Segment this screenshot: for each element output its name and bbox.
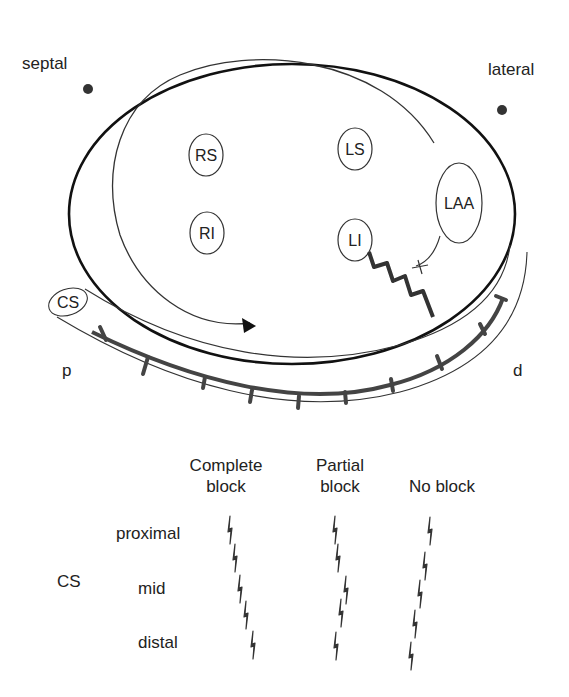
cs-proximal-end-label: p [62, 362, 71, 379]
column-header-line1: Complete [176, 455, 276, 476]
legend-column-no-block: No block [392, 476, 492, 497]
vein-LI: LI [338, 219, 372, 261]
bolt-icon [409, 642, 413, 670]
bolt-icon [251, 631, 255, 659]
left-atrial-appendage: LAA [436, 163, 482, 243]
vein-LS: LS [338, 128, 372, 170]
complete-block-activation-column [228, 516, 255, 659]
bolt-icon [339, 599, 343, 627]
legend-column-partial-block: Partial block [300, 455, 380, 497]
bolt-icon [333, 516, 337, 544]
column-header-line1: No block [392, 476, 492, 497]
bolt-icon [228, 516, 232, 544]
bolt-icon [334, 632, 338, 660]
svg-text:RI: RI [199, 225, 215, 242]
legend-row-distal: distal [138, 634, 178, 651]
bolt-icon [428, 517, 432, 545]
bolt-icon [336, 544, 340, 572]
bolt-icon [413, 610, 417, 638]
column-header-line1: Partial [300, 455, 380, 476]
legend-group-label-cs: CS [57, 573, 81, 590]
coronary-sinus-lower-wall [57, 252, 527, 402]
catheter-electrodes [100, 296, 506, 408]
bolt-icon [233, 544, 237, 572]
column-header-line2: block [176, 476, 276, 497]
vein-RI: RI [190, 212, 224, 254]
partial-block-activation-column [333, 516, 348, 660]
cs-catheter [92, 298, 503, 394]
legend-row-mid: mid [138, 580, 165, 597]
legend-row-proximal: proximal [116, 525, 180, 542]
svg-text:RS: RS [195, 147, 217, 164]
septal-label: septal [22, 55, 67, 72]
septal-dot-icon [83, 84, 93, 94]
block-cross-icon [412, 260, 428, 274]
bolt-icon [423, 552, 427, 580]
cs-activation-diagram: RS LS RI LI LAA CS [0, 0, 569, 697]
blocked-conduction-line [416, 236, 440, 266]
wavefront-arrowhead-icon [242, 318, 256, 333]
svg-text:LAA: LAA [444, 195, 475, 212]
lateral-dot-icon [497, 105, 507, 115]
coronary-sinus-upper-wall [85, 245, 510, 357]
bolt-icon [238, 575, 242, 603]
vein-RS: RS [189, 134, 223, 176]
lateral-label: lateral [488, 61, 534, 78]
activation-wavefront-line [113, 60, 435, 324]
svg-text:LI: LI [348, 232, 361, 249]
bolt-icon [418, 580, 422, 608]
cs-tube-label: CS [57, 294, 79, 311]
cs-distal-end-label: d [513, 362, 522, 379]
svg-text:LS: LS [345, 141, 365, 158]
no-block-activation-column [409, 517, 432, 670]
bolt-icon [344, 576, 348, 604]
column-header-line2: block [300, 476, 380, 497]
bolt-icon [244, 601, 248, 629]
legend-column-complete-block: Complete block [176, 455, 276, 497]
